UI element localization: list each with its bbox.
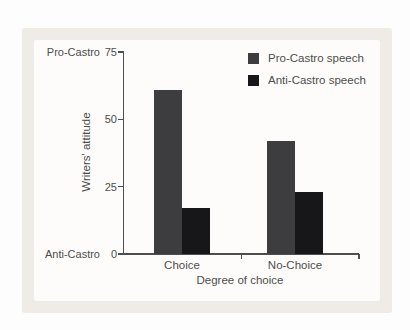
legend-swatch-pro-castro-speech [248, 53, 259, 64]
y-tick-75 [118, 51, 123, 53]
bar-chart: Pro-Castro Anti-Castro Writers' attitude… [0, 0, 410, 330]
y-axis-line [123, 51, 125, 254]
legend-item-anti-castro-speech: Anti-Castro speech [248, 73, 366, 87]
legend-item-pro-castro-speech: Pro-Castro speech [248, 51, 364, 65]
x-axis-title: Degree of choice [180, 274, 300, 286]
legend-label-anti-castro-speech: Anti-Castro speech [268, 74, 366, 86]
legend-label-pro-castro-speech: Pro-Castro speech [268, 52, 364, 64]
x-tick-1 [358, 254, 360, 259]
x-category-label-no-choice: No-Choice [255, 258, 335, 272]
bar-pro-castro-speech-choice [154, 90, 182, 254]
y-tick-label-75: 75 [87, 45, 117, 59]
bar-pro-castro-speech-no-choice [267, 141, 295, 254]
y-tick-label-25: 25 [87, 180, 117, 194]
y-tick-label-50: 50 [87, 112, 117, 126]
x-tick-0 [241, 254, 243, 259]
bar-anti-castro-speech-no-choice [295, 192, 323, 254]
y-tick-label-0: 0 [87, 247, 117, 261]
y-tick-25 [118, 186, 123, 188]
page: Pro-Castro Anti-Castro Writers' attitude… [0, 0, 410, 330]
x-category-label-choice: Choice [142, 258, 222, 272]
bar-anti-castro-speech-choice [182, 208, 210, 254]
y-tick-50 [118, 119, 123, 121]
y-tick-0 [118, 253, 123, 255]
legend-swatch-anti-castro-speech [248, 75, 259, 86]
